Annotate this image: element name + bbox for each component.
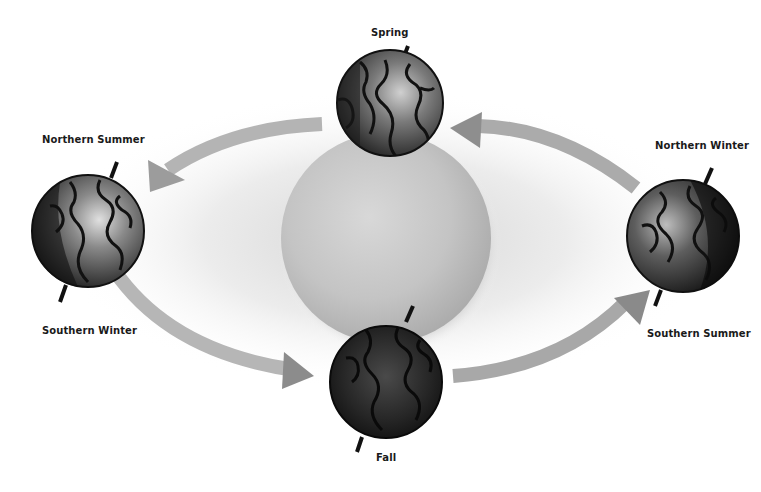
sun bbox=[278, 133, 502, 357]
label-fall: Fall bbox=[376, 452, 396, 463]
label-southern-summer: Southern Summer bbox=[647, 328, 751, 339]
label-northern-winter: Northern Winter bbox=[655, 140, 749, 151]
label-southern-winter: Southern Winter bbox=[42, 325, 137, 336]
seasons-diagram bbox=[0, 0, 761, 492]
label-northern-summer: Northern Summer bbox=[42, 134, 145, 145]
label-spring: Spring bbox=[371, 27, 409, 38]
